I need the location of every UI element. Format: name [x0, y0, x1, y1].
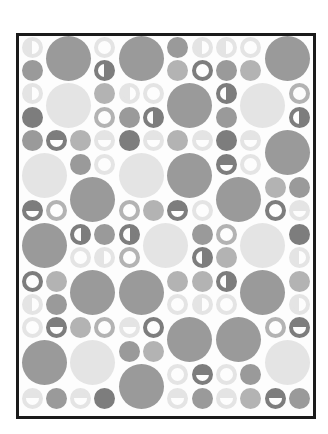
- ring-circle: [216, 294, 237, 315]
- solid-circle: [265, 177, 286, 198]
- solid-circle: [119, 130, 140, 151]
- half-circle-vertical: [22, 294, 43, 315]
- solid-circle: [46, 294, 67, 315]
- half-circle-horizontal: [22, 388, 43, 409]
- half-circle-horizontal: [289, 200, 310, 221]
- half-circle-vertical: [22, 37, 43, 58]
- solid-circle: [192, 224, 213, 245]
- large-circle: [70, 177, 115, 222]
- ring-circle: [265, 200, 286, 221]
- large-circle: [46, 36, 91, 81]
- ring-circle: [265, 317, 286, 338]
- ring-circle: [240, 154, 261, 175]
- ring-circle: [119, 200, 140, 221]
- ring-circle: [192, 60, 213, 81]
- half-circle-vertical: [70, 224, 91, 245]
- half-circle-vertical: [289, 294, 310, 315]
- half-circle-vertical: [216, 37, 237, 58]
- half-circle-horizontal: [192, 130, 213, 151]
- half-circle-vertical: [216, 271, 237, 292]
- half-circle-horizontal: [70, 388, 91, 409]
- solid-circle: [46, 271, 67, 292]
- half-circle-horizontal: [216, 388, 237, 409]
- half-circle-vertical: [22, 83, 43, 104]
- large-circle: [22, 340, 67, 385]
- ring-circle: [216, 364, 237, 385]
- solid-circle: [216, 107, 237, 128]
- ring-circle: [94, 154, 115, 175]
- large-circle: [119, 36, 164, 81]
- half-circle-horizontal: [289, 317, 310, 338]
- solid-circle: [240, 60, 261, 81]
- solid-circle: [22, 60, 43, 81]
- large-circle: [265, 130, 310, 175]
- solid-circle: [192, 271, 213, 292]
- solid-circle: [119, 107, 140, 128]
- solid-circle: [240, 388, 261, 409]
- large-circle: [119, 270, 164, 315]
- solid-circle: [70, 154, 91, 175]
- solid-circle: [289, 224, 310, 245]
- half-circle-vertical: [119, 224, 140, 245]
- half-circle-horizontal: [265, 388, 286, 409]
- solid-circle: [289, 271, 310, 292]
- ring-circle: [240, 37, 261, 58]
- large-circle: [46, 83, 91, 128]
- solid-circle: [192, 388, 213, 409]
- ring-circle: [192, 200, 213, 221]
- half-circle-horizontal: [119, 317, 140, 338]
- solid-circle: [216, 60, 237, 81]
- half-circle-vertical: [289, 107, 310, 128]
- solid-circle: [94, 224, 115, 245]
- solid-circle: [94, 388, 115, 409]
- ring-circle: [94, 37, 115, 58]
- half-circle-vertical: [192, 294, 213, 315]
- ring-circle: [22, 317, 43, 338]
- ring-circle: [22, 271, 43, 292]
- ring-circle: [289, 83, 310, 104]
- half-circle-horizontal: [46, 130, 67, 151]
- half-circle-horizontal: [22, 200, 43, 221]
- half-circle-vertical: [289, 247, 310, 268]
- solid-circle: [167, 37, 188, 58]
- solid-circle: [289, 177, 310, 198]
- large-circle: [265, 36, 310, 81]
- half-circle-vertical: [143, 107, 164, 128]
- large-circle: [216, 317, 261, 362]
- ring-circle: [94, 107, 115, 128]
- half-circle-vertical: [192, 37, 213, 58]
- ring-circle: [119, 247, 140, 268]
- half-circle-horizontal: [192, 364, 213, 385]
- large-circle: [22, 223, 67, 268]
- large-circle: [119, 153, 164, 198]
- half-circle-horizontal: [46, 317, 67, 338]
- large-circle: [265, 340, 310, 385]
- solid-circle: [289, 388, 310, 409]
- half-circle-horizontal: [216, 154, 237, 175]
- large-circle: [22, 153, 67, 198]
- half-circle-vertical: [119, 83, 140, 104]
- solid-circle: [119, 341, 140, 362]
- solid-circle: [216, 130, 237, 151]
- ring-circle: [46, 200, 67, 221]
- ring-circle: [216, 224, 237, 245]
- half-circle-vertical: [192, 247, 213, 268]
- half-circle-horizontal: [167, 388, 188, 409]
- solid-circle: [46, 388, 67, 409]
- solid-circle: [22, 107, 43, 128]
- solid-circle: [143, 341, 164, 362]
- large-circle: [119, 364, 164, 409]
- solid-circle: [216, 247, 237, 268]
- solid-circle: [22, 130, 43, 151]
- large-circle: [216, 177, 261, 222]
- solid-circle: [167, 271, 188, 292]
- half-circle-horizontal: [143, 130, 164, 151]
